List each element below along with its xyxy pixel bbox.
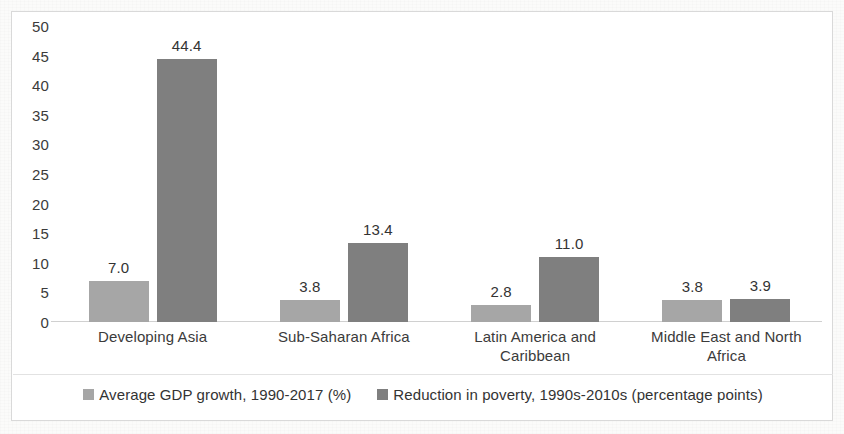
legend-label: Average GDP growth, 1990-2017 (%) bbox=[99, 386, 351, 403]
bar-value-label: 3.8 bbox=[662, 279, 722, 294]
bar-value-label: 44.4 bbox=[157, 38, 217, 53]
x-axis-category-labels: Developing AsiaSub-Saharan AfricaLatin A… bbox=[57, 328, 822, 366]
chart-figure: 50454035302520151050 7.044.43.813.42.811… bbox=[0, 0, 844, 434]
bar-groups: 7.044.43.813.42.811.03.83.9 bbox=[57, 26, 822, 322]
bar-wrapper: 3.9 bbox=[730, 26, 790, 322]
y-axis-tick-15: 15 bbox=[15, 226, 49, 241]
x-axis-category-label: Developing Asia bbox=[57, 328, 248, 366]
bar-wrapper: 11.0 bbox=[539, 26, 599, 322]
y-axis-tick-35: 35 bbox=[15, 107, 49, 122]
y-axis-tick-20: 20 bbox=[15, 196, 49, 211]
bar[interactable] bbox=[539, 257, 599, 322]
y-axis-tick-5: 5 bbox=[15, 285, 49, 300]
legend-swatch-icon bbox=[377, 389, 388, 400]
bar-wrapper: 3.8 bbox=[280, 26, 340, 322]
y-axis-tick-45: 45 bbox=[15, 48, 49, 63]
y-axis-tick-0: 0 bbox=[15, 315, 49, 330]
legend-item[interactable]: Average GDP growth, 1990-2017 (%) bbox=[83, 386, 351, 403]
legend-swatch-icon bbox=[83, 389, 94, 400]
bar[interactable] bbox=[662, 300, 722, 322]
bar-value-label: 3.9 bbox=[730, 278, 790, 293]
bar[interactable] bbox=[348, 243, 408, 322]
bar[interactable] bbox=[89, 281, 149, 322]
y-axis-tick-30: 30 bbox=[15, 137, 49, 152]
y-axis-tick-40: 40 bbox=[15, 78, 49, 93]
bar-value-label: 11.0 bbox=[539, 236, 599, 251]
y-axis-tick-25: 25 bbox=[15, 167, 49, 182]
x-axis-category-label: Middle East and North Africa bbox=[631, 328, 822, 366]
chart-frame: 50454035302520151050 7.044.43.813.42.811… bbox=[11, 11, 833, 421]
bar-wrapper: 44.4 bbox=[157, 26, 217, 322]
x-axis-category-label: Latin America and Caribbean bbox=[440, 328, 631, 366]
bar[interactable] bbox=[471, 305, 531, 322]
bar-value-label: 7.0 bbox=[89, 260, 149, 275]
bar-wrapper: 13.4 bbox=[348, 26, 408, 322]
bar-value-label: 2.8 bbox=[471, 284, 531, 299]
legend-separator bbox=[13, 374, 833, 375]
bar-wrapper: 2.8 bbox=[471, 26, 531, 322]
plot-area: 50454035302520151050 7.044.43.813.42.811… bbox=[57, 26, 822, 322]
bar-wrapper: 7.0 bbox=[89, 26, 149, 322]
bar-group: 3.83.9 bbox=[631, 26, 822, 322]
bar[interactable] bbox=[730, 299, 790, 322]
bar-group: 2.811.0 bbox=[440, 26, 631, 322]
y-axis-tick-50: 50 bbox=[15, 19, 49, 34]
bar-value-label: 3.8 bbox=[280, 279, 340, 294]
chart-legend: Average GDP growth, 1990-2017 (%)Reducti… bbox=[12, 386, 834, 403]
bar-group: 7.044.4 bbox=[57, 26, 248, 322]
bar-group: 3.813.4 bbox=[248, 26, 439, 322]
bar-value-label: 13.4 bbox=[348, 222, 408, 237]
bar-wrapper: 3.8 bbox=[662, 26, 722, 322]
y-axis-tick-10: 10 bbox=[15, 255, 49, 270]
bar[interactable] bbox=[157, 59, 217, 322]
legend-item[interactable]: Reduction in poverty, 1990s-2010s (perce… bbox=[377, 386, 762, 403]
x-axis-category-label: Sub-Saharan Africa bbox=[248, 328, 439, 366]
bar[interactable] bbox=[280, 300, 340, 322]
legend-label: Reduction in poverty, 1990s-2010s (perce… bbox=[393, 386, 762, 403]
